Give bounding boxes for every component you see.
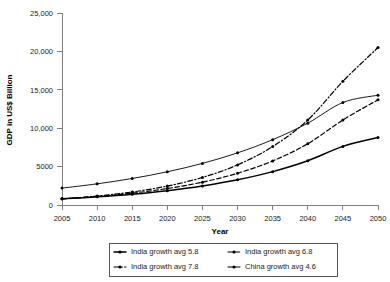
data-point-marker [271,145,274,148]
legend-marker-icon [118,265,121,268]
series-line [62,137,378,198]
data-point-marker [131,177,134,180]
y-axis-title: GDP in US$ Billion [5,74,14,145]
y-tick-label: 25,000 [30,9,53,18]
y-tick-group: 0500010,00015,00020,00025,000 [30,9,62,210]
y-tick-label: 5000 [36,162,53,171]
series-line [62,95,378,188]
series-1 [61,98,380,200]
legend-label: India growth avg 5.8 [131,247,199,256]
y-tick-label: 10,000 [30,124,53,133]
x-axis: 2005201020152020202520302035204020452050… [54,205,387,236]
data-point-marker [61,187,64,190]
data-point-marker [271,170,274,173]
legend-marker-icon [232,250,235,253]
data-point-marker [96,195,99,198]
series-3 [61,94,380,190]
x-tick-label: 2025 [194,214,211,223]
x-tick-label: 2015 [124,214,141,223]
data-point-marker [306,122,309,125]
data-point-marker [341,118,344,121]
chart-legend: India growth avg 5.8India growth avg 6.8… [109,243,337,276]
data-point-marker [131,190,134,193]
legend-marker-icon [232,265,235,268]
legend-label: India growth avg 7.8 [131,262,199,271]
data-point-marker [377,98,380,101]
chart-canvas: 0500010,00015,00020,00025,000 GDP in US$… [0,0,390,282]
data-point-marker [236,178,239,181]
data-point-marker [271,138,274,141]
y-axis: 0500010,00015,00020,00025,000 GDP in US$… [5,9,62,210]
data-point-marker [306,159,309,162]
data-point-marker [236,172,239,175]
series-0 [61,136,380,200]
x-tick-label: 2035 [264,214,281,223]
data-point-marker [341,101,344,104]
data-point-marker [236,151,239,154]
data-point-marker [271,159,274,162]
y-tick-label: 0 [49,201,53,210]
data-point-marker [166,170,169,173]
data-point-marker [377,136,380,139]
x-tick-label: 2050 [370,214,387,223]
series-line [62,48,378,199]
data-point-marker [61,197,64,200]
gdp-projection-chart: 0500010,00015,00020,00025,000 GDP in US$… [0,0,390,282]
x-tick-label: 2020 [159,214,176,223]
x-tick-label: 2030 [229,214,246,223]
x-tick-label: 2010 [89,214,106,223]
data-point-marker [306,142,309,145]
data-point-marker [377,94,380,97]
data-point-marker [166,185,169,188]
x-axis-title: Year [212,227,229,236]
legend-marker-icon [118,250,121,253]
y-tick-label: 20,000 [30,47,53,56]
data-point-marker [236,163,239,166]
series-2 [61,46,380,200]
legend-label: India growth avg 6.8 [245,247,313,256]
data-point-marker [201,185,204,188]
data-point-marker [96,182,99,185]
x-tick-group: 2005201020152020202520302035204020452050 [54,205,387,223]
data-point-marker [201,181,204,184]
data-point-marker [341,145,344,148]
data-point-marker [306,119,309,122]
data-point-marker [201,176,204,179]
y-tick-label: 15,000 [30,86,53,95]
series-line [62,100,378,199]
x-tick-label: 2045 [335,214,352,223]
data-point-marker [341,80,344,83]
x-tick-label: 2040 [299,214,316,223]
data-point-marker [201,162,204,165]
data-point-marker [377,46,380,49]
legend-label: China growth avg 4.6 [245,262,316,271]
x-tick-label: 2005 [54,214,71,223]
series-group [61,46,380,200]
